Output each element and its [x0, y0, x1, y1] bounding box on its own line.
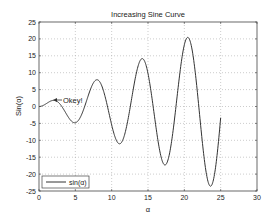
x-tick-label: 5 — [73, 194, 77, 201]
legend: sin(α) — [42, 176, 89, 188]
y-axis-label: Sin(α) — [14, 95, 23, 116]
x-tick-label: 10 — [108, 194, 116, 201]
y-tick-label: -25 — [26, 188, 36, 195]
x-tick-label: 15 — [144, 194, 152, 201]
y-tick-label: 25 — [28, 19, 36, 26]
y-tick-label: 5 — [32, 86, 36, 93]
y-tick-label: 10 — [28, 69, 36, 76]
x-tick-label: 30 — [253, 194, 261, 201]
x-axis-label: α — [146, 205, 151, 214]
y-tick-label: -15 — [26, 154, 36, 161]
y-tick-label: -10 — [26, 137, 36, 144]
x-tick-label: 25 — [217, 194, 225, 201]
x-tick-label: 0 — [37, 194, 41, 201]
annotation-text: Okey! — [63, 96, 83, 105]
y-tick-label: 20 — [28, 35, 36, 42]
chart-figure: 051015202530-25-20-15-10-50510152025 Inc… — [0, 0, 274, 220]
x-tick-label: 20 — [180, 194, 188, 201]
y-tick-label: -20 — [26, 171, 36, 178]
y-tick-label: -5 — [30, 120, 36, 127]
plot-area: 051015202530-25-20-15-10-50510152025 — [26, 19, 261, 202]
legend-label: sin(α) — [69, 179, 87, 187]
y-tick-label: 15 — [28, 52, 36, 59]
chart-title: Increasing Sine Curve — [111, 10, 185, 19]
y-tick-label: 0 — [32, 103, 36, 110]
